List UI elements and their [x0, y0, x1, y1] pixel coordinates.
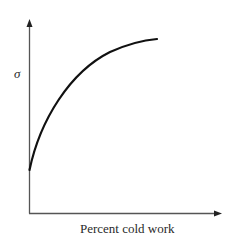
y-axis-label: σ — [14, 66, 21, 81]
curve — [30, 39, 158, 170]
x-axis-arrow-icon — [214, 211, 222, 217]
chart: σ Percent cold work — [0, 0, 238, 247]
y-axis-arrow-icon — [27, 19, 33, 27]
x-axis-label: Percent cold work — [80, 221, 175, 236]
